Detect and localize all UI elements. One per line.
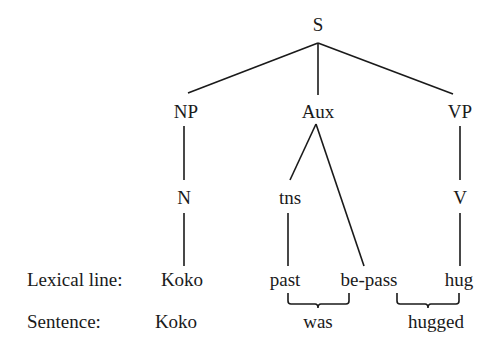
bracket-was bbox=[288, 293, 349, 308]
lexical-koko: Koko bbox=[161, 270, 203, 289]
node-vp: VP bbox=[448, 102, 472, 121]
node-aux: Aux bbox=[302, 102, 335, 121]
sentence-line-label: Sentence: bbox=[27, 312, 101, 331]
syntax-tree-diagram: S NP Aux VP N tns V Lexical line: Koko p… bbox=[0, 0, 502, 356]
lexical-past: past bbox=[270, 270, 301, 289]
node-s: S bbox=[313, 15, 324, 34]
edge-s-np bbox=[188, 43, 318, 93]
sentence-was: was bbox=[303, 312, 333, 331]
edge-aux-tns bbox=[290, 124, 316, 180]
sentence-hugged: hugged bbox=[408, 312, 464, 331]
lexical-line-label: Lexical line: bbox=[27, 270, 122, 289]
node-tns: tns bbox=[279, 188, 301, 207]
edge-s-vp bbox=[318, 43, 453, 94]
lexical-be-pass: be-pass bbox=[341, 270, 398, 289]
node-np: NP bbox=[174, 102, 198, 121]
node-v: V bbox=[453, 188, 467, 207]
edge-aux-bepass bbox=[316, 124, 364, 266]
bracket-hugged bbox=[397, 293, 459, 308]
node-n: N bbox=[177, 188, 191, 207]
tree-lines bbox=[0, 0, 502, 356]
lexical-hug: hug bbox=[445, 270, 474, 289]
sentence-koko: Koko bbox=[155, 312, 197, 331]
